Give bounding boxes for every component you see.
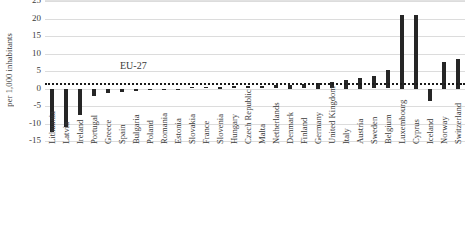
x-axis-label: Poland — [146, 120, 155, 144]
y-axis-tick-label: 15 — [32, 31, 41, 40]
x-axis-label: Portugal — [90, 115, 99, 144]
bar — [134, 89, 138, 92]
y-axis-tick-label: 0 — [37, 83, 42, 92]
eu27-reference-label: EU-27 — [120, 61, 147, 71]
x-axis-label: Switzerland — [454, 103, 463, 144]
bar-slot — [339, 1, 353, 141]
bar — [414, 15, 418, 89]
x-axis-label: Cyprus — [412, 119, 421, 144]
x-axis-category-labels: LithuaniaLatviaIrelandPortugalGreeceSpai… — [45, 142, 465, 241]
y-axis-tick-label: 5 — [37, 66, 42, 75]
x-axis-label: Germany — [314, 112, 323, 144]
x-axis-label-slot: Hungary — [227, 142, 241, 241]
bar — [372, 76, 376, 89]
bar-chart: per 1,000 inhabitants 2520151050-5-10-15… — [0, 0, 467, 241]
x-axis-label: Belgium — [384, 114, 393, 144]
x-axis-label: Ireland — [76, 120, 85, 144]
x-axis-label-slot: Slovakia — [185, 142, 199, 241]
bar — [260, 86, 264, 89]
x-axis-label-slot: Netherlands — [269, 142, 283, 241]
y-axis-tick-label: -10 — [29, 118, 41, 127]
x-axis-label-slot: Slovenia — [213, 142, 227, 241]
x-axis-label-slot: Ireland — [73, 142, 87, 241]
x-axis-label-slot: France — [199, 142, 213, 241]
x-axis-label: Bulgaria — [132, 114, 141, 144]
x-axis-label-slot: Greece — [101, 142, 115, 241]
x-axis-label: Czech Republic — [244, 89, 253, 144]
x-axis-label: Latvia — [62, 122, 71, 144]
x-axis-label: Netherlands — [272, 102, 281, 144]
x-axis-label-slot: Lithuania — [45, 142, 59, 241]
x-axis-label: Hungary — [230, 114, 239, 144]
bar — [232, 86, 236, 88]
x-axis-label-slot: Bulgaria — [129, 142, 143, 241]
x-axis-label: Greece — [104, 120, 113, 144]
x-axis-label-slot: United Kingdom — [325, 142, 339, 241]
bar-slot — [255, 1, 269, 141]
y-axis-tick-label: 10 — [32, 48, 41, 57]
x-axis-label: Austria — [356, 119, 365, 144]
x-axis-label: Finland — [300, 118, 309, 144]
y-axis-tick-label: -15 — [29, 136, 41, 145]
y-axis-title: per 1,000 inhabitants — [0, 0, 18, 140]
x-axis-label-slot: Luxembourg — [395, 142, 409, 241]
bar — [204, 87, 208, 88]
x-axis-label: Italy — [342, 128, 351, 144]
x-axis-label-slot: Poland — [143, 142, 157, 241]
bar — [190, 87, 194, 88]
y-axis-title-text: per 1,000 inhabitants — [4, 33, 14, 107]
x-axis-label: United Kingdom — [328, 86, 337, 144]
x-axis-label: Slovenia — [216, 114, 225, 144]
y-axis-tick-label: -5 — [34, 101, 42, 110]
bar — [274, 85, 278, 88]
bar — [120, 89, 124, 93]
x-axis-label: Luxembourg — [398, 100, 407, 144]
x-axis-label: Slovakia — [188, 114, 197, 144]
x-axis-label-slot: Italy — [339, 142, 353, 241]
bar — [78, 89, 82, 115]
x-axis-label-slot: Finland — [297, 142, 311, 241]
x-axis-label-slot: Cyprus — [409, 142, 423, 241]
x-axis-label: Spain — [118, 124, 127, 144]
x-axis-label-slot: Czech Republic — [241, 142, 255, 241]
y-axis-tick-label: 25 — [32, 0, 41, 5]
x-axis-label-slot: Denmark — [283, 142, 297, 241]
bar — [288, 85, 292, 89]
bar — [162, 89, 166, 90]
bar — [148, 89, 152, 91]
x-axis-label-slot: Iceland — [423, 142, 437, 241]
x-axis-label: Sweden — [370, 117, 379, 144]
x-axis-label: France — [202, 121, 211, 144]
x-axis-label-slot: Belgium — [381, 142, 395, 241]
bar — [106, 89, 110, 93]
bar — [176, 89, 180, 90]
x-axis-label-slot: Latvia — [59, 142, 73, 241]
x-axis-label-slot: Romania — [157, 142, 171, 241]
x-axis-label: Iceland — [426, 119, 435, 144]
eu27-reference-line — [45, 83, 465, 85]
x-axis-label-slot: Malta — [255, 142, 269, 241]
y-axis-tick-label: 20 — [32, 13, 41, 22]
x-axis-label-slot: Norway — [437, 142, 451, 241]
y-axis-tick-labels: 2520151050-5-10-15 — [18, 0, 44, 140]
x-axis-label: Denmark — [286, 112, 295, 144]
x-axis-label: Malta — [258, 124, 267, 144]
bar — [92, 89, 96, 96]
bar-slot — [59, 1, 73, 141]
x-axis-label: Lithuania — [48, 111, 57, 144]
x-axis-label-slot: Estonia — [171, 142, 185, 241]
bar — [428, 89, 432, 101]
x-axis-label-slot: Sweden — [367, 142, 381, 241]
bar — [386, 70, 390, 88]
bar — [400, 15, 404, 89]
x-axis-label-slot: Switzerland — [451, 142, 465, 241]
x-axis-label-slot: Spain — [115, 142, 129, 241]
x-axis-label: Estonia — [174, 118, 183, 144]
x-axis-label: Norway — [440, 116, 449, 144]
x-axis-label-slot: Portugal — [87, 142, 101, 241]
bar — [218, 87, 222, 89]
x-axis-label-slot: Austria — [353, 142, 367, 241]
x-axis-label-slot: Germany — [311, 142, 325, 241]
x-axis-label: Romania — [160, 113, 169, 144]
